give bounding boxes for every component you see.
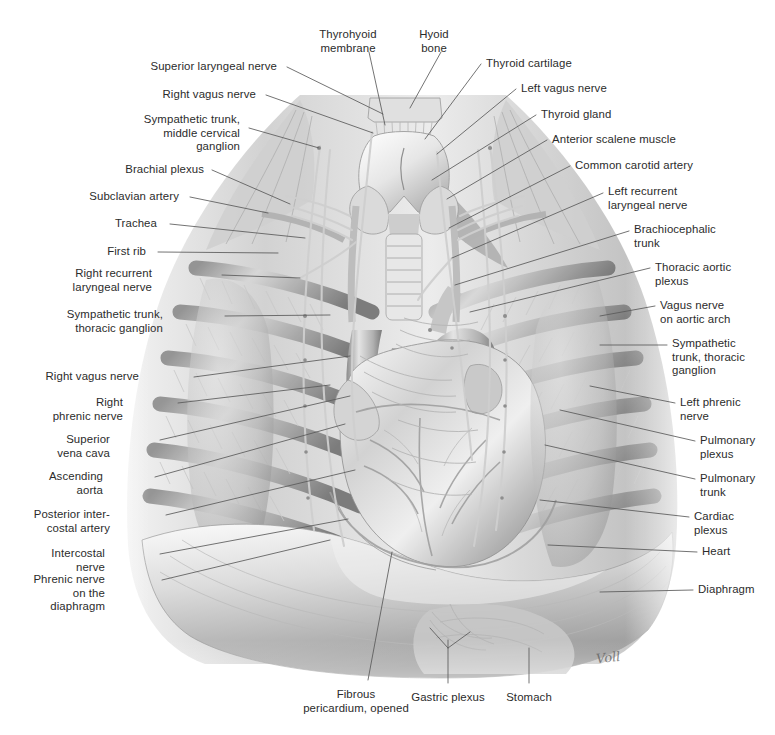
label-ascending-aorta: Ascending aorta bbox=[49, 470, 103, 497]
label-thyroid-cartilage: Thyroid cartilage bbox=[486, 57, 572, 71]
label-posterior-intercostal-artery: Posterior inter- costal artery bbox=[34, 508, 110, 535]
label-right-vagus-nerve-thorax: Right vagus nerve bbox=[45, 370, 139, 384]
label-superior-laryngeal-nerve: Superior laryngeal nerve bbox=[150, 60, 277, 74]
artist-signature: Voll bbox=[595, 649, 621, 666]
label-thyroid-gland: Thyroid gland bbox=[541, 108, 611, 122]
label-diaphragm: Diaphragm bbox=[698, 583, 755, 597]
label-thoracic-aortic-plexus: Thoracic aortic plexus bbox=[655, 261, 731, 288]
label-right-recurrent-laryngeal: Right recurrent laryngeal nerve bbox=[73, 267, 152, 294]
label-sympathetic-trunk-tg-right: Sympathetic trunk, thoracic ganglion bbox=[67, 308, 163, 335]
label-common-carotid-artery: Common carotid artery bbox=[575, 159, 693, 173]
anatomy-illustration bbox=[0, 0, 775, 735]
label-cardiac-plexus: Cardiac plexus bbox=[694, 510, 734, 537]
label-brachiocephalic-trunk: Brachiocephalic trunk bbox=[634, 223, 716, 250]
label-left-recurrent-laryngeal: Left recurrent laryngeal nerve bbox=[608, 185, 687, 212]
thyroid-isthmus bbox=[388, 214, 420, 236]
label-anterior-scalene-muscle: Anterior scalene muscle bbox=[552, 133, 676, 147]
label-left-phrenic-nerve: Left phrenic nerve bbox=[680, 396, 741, 423]
label-subclavian-artery: Subclavian artery bbox=[89, 190, 179, 204]
label-pulmonary-trunk: Pulmonary trunk bbox=[700, 472, 755, 499]
label-vagus-nerve-aortic-arch: Vagus nerve on aortic arch bbox=[660, 299, 730, 326]
label-sympathetic-trunk-tg-left: Sympathetic trunk, thoracic ganglion bbox=[672, 337, 745, 378]
label-left-vagus-nerve: Left vagus nerve bbox=[521, 82, 607, 96]
label-phrenic-nerve-diaphragm: Phrenic nerve on the diaphragm bbox=[33, 573, 105, 614]
label-trachea: Trachea bbox=[115, 217, 157, 231]
label-first-rib: First rib bbox=[107, 245, 146, 259]
label-intercostal-nerve: Intercostal nerve bbox=[51, 547, 105, 574]
anatomy-plate: Superior laryngeal nerveRight vagus nerv… bbox=[0, 0, 775, 735]
label-right-vagus-nerve-neck: Right vagus nerve bbox=[162, 88, 256, 102]
label-right-phrenic-nerve: Right phrenic nerve bbox=[53, 396, 123, 423]
label-pulmonary-plexus: Pulmonary plexus bbox=[700, 434, 755, 461]
label-heart: Heart bbox=[702, 545, 730, 559]
trachea-shape bbox=[386, 234, 422, 320]
hyoid-bone-shape bbox=[368, 98, 442, 122]
label-stomach: Stomach bbox=[0, 691, 775, 705]
label-sympathetic-trunk-mcg: Sympathetic trunk, middle cervical gangl… bbox=[144, 113, 240, 154]
label-brachial-plexus: Brachial plexus bbox=[125, 163, 204, 177]
label-hyoid-bone: Hyoid bone bbox=[0, 28, 775, 55]
label-superior-vena-cava: Superior vena cava bbox=[57, 433, 110, 460]
